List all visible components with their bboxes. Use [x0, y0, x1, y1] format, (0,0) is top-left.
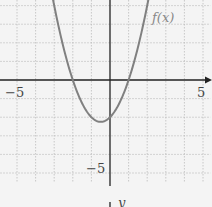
x-axis-arrow-icon — [205, 77, 212, 84]
f-curve — [49, 0, 153, 122]
function-label: f(x) — [151, 10, 174, 25]
grid — [0, 0, 210, 182]
x-tick-neg5: −5 — [5, 85, 24, 100]
y-tick-neg5: −5 — [86, 161, 105, 176]
bottom-y-label: y — [117, 195, 126, 207]
x-tick-pos5: 5 — [197, 85, 205, 100]
function-graph: −5 5 −5 f(x) y — [0, 0, 212, 207]
